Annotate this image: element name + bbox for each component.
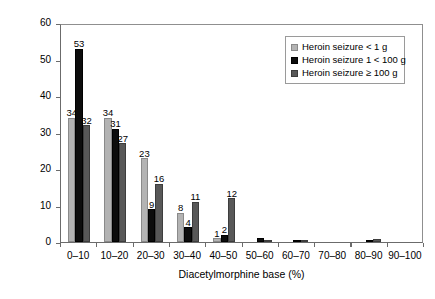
bar-value-label: 16 [154,174,165,184]
bar: 1 [213,238,220,242]
x-axis-tick-mark [350,243,351,247]
x-axis-tick-label: 30–40 [173,250,201,261]
bar-value-label: 23 [139,149,150,159]
bar-value-label: 31 [110,119,121,129]
bar-value-label: 34 [103,108,114,118]
legend-swatch-icon [291,44,298,51]
legend-item-label: Heroin seizure 1 < 100 g [302,55,406,65]
x-axis-tick-mark [169,243,170,247]
bar: 34 [68,118,75,242]
bar-value-label: 53 [74,39,85,49]
bar: 11 [192,202,199,242]
bar: 16 [155,184,162,242]
bar: 27 [119,143,126,242]
bar: 23 [141,158,148,242]
x-axis-tick-label: 90–100 [388,250,421,261]
bar-value-label: 8 [178,203,183,213]
bar: 53 [75,49,82,242]
bar: 12 [228,198,235,242]
y-axis-tick-label: 10 [40,200,51,211]
bar [257,238,264,242]
x-axis-tick-mark [387,243,388,247]
bar: 32 [83,125,90,242]
x-axis-tick-label: 20–30 [137,250,165,261]
y-axis-tick-label: 50 [40,54,51,65]
chart-figure: Purity of dose (%) 0102030405060 0–1010–… [0,0,435,299]
bar [293,240,300,242]
x-axis-tick-label: 0–10 [67,250,89,261]
x-axis-tick-label: 70–80 [318,250,346,261]
x-axis-tick-mark [242,243,243,247]
bar: 8 [177,213,184,242]
x-axis-title: Diacetylmorphine base (%) [60,268,423,280]
bar-value-label: 2 [222,225,227,235]
bar: 31 [112,129,119,242]
x-axis-tick-label: 40–50 [209,250,237,261]
bar-value-label: 11 [190,192,200,202]
bar: 34 [104,118,111,242]
bar: 9 [148,209,155,242]
bar [264,240,271,242]
bar-value-label: 32 [81,116,92,126]
bar [373,239,380,242]
x-axis-tick-mark [205,243,206,247]
y-axis-tick-label: 0 [45,236,51,247]
x-axis-tick-mark [96,243,97,247]
bar [301,240,308,242]
bar-value-label: 27 [117,134,128,144]
x-axis-tick-label: 80–90 [355,250,383,261]
chart-legend: Heroin seizure < 1 gHeroin seizure 1 < 1… [285,36,405,84]
bar-value-label: 1 [214,229,219,239]
legend-item: Heroin seizure < 1 g [291,41,399,53]
y-axis-tick-label: 20 [40,163,51,174]
x-axis-tick-label: 60–70 [282,250,310,261]
legend-swatch-icon [291,57,298,64]
x-axis-tick-label: 50–60 [246,250,274,261]
bar-value-label: 4 [185,218,190,228]
y-axis-tick-label: 30 [40,127,51,138]
bar: 4 [184,227,191,242]
x-axis-tick-mark [278,243,279,247]
bar [366,240,373,242]
x-axis-tick-mark [60,243,61,247]
legend-item-label: Heroin seizure ≥ 100 g [302,68,398,78]
x-axis-tick-mark [314,243,315,247]
x-axis-tick-mark [133,243,134,247]
legend-item: Heroin seizure 1 < 100 g [291,54,399,66]
legend-swatch-icon [291,70,298,77]
bar-value-label: 9 [149,200,154,210]
bar-value-label: 12 [226,189,237,199]
x-axis-tick-mark [423,243,424,247]
legend-item-label: Heroin seizure < 1 g [302,42,387,52]
legend-item: Heroin seizure ≥ 100 g [291,67,399,79]
y-axis-tick-label: 60 [40,17,51,28]
bar: 2 [221,235,228,242]
y-axis-tick-label: 40 [40,90,51,101]
x-axis-tick-label: 10–20 [101,250,129,261]
